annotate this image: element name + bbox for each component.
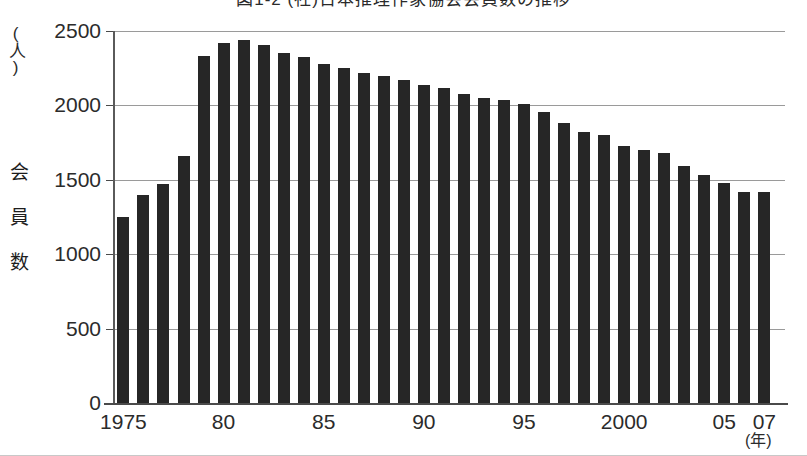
y-axis-title: 会員数 bbox=[6, 150, 32, 285]
bar bbox=[598, 135, 610, 403]
y-axis-tick-label: 500 bbox=[31, 318, 101, 339]
y-axis-title-char: 数 bbox=[6, 240, 32, 285]
bar bbox=[318, 64, 330, 403]
x-axis-tick-label: 80 bbox=[212, 410, 235, 434]
bar bbox=[398, 80, 410, 403]
bar bbox=[578, 132, 590, 403]
bar bbox=[278, 53, 290, 403]
bar bbox=[298, 57, 310, 403]
x-axis-unit-label: (年) bbox=[745, 432, 772, 450]
bar bbox=[618, 146, 630, 403]
y-axis-tick-mark bbox=[106, 254, 113, 255]
y-axis-tick-label: 2000 bbox=[31, 94, 101, 115]
bar bbox=[218, 43, 230, 403]
x-axis-tick-label: 2000 bbox=[601, 410, 648, 434]
y-axis-title-char: 会 bbox=[6, 150, 32, 195]
bar bbox=[338, 68, 350, 403]
bar bbox=[378, 76, 390, 403]
bar bbox=[137, 195, 149, 403]
bar bbox=[678, 166, 690, 403]
gridline bbox=[113, 31, 785, 32]
x-axis-tick-label: 05 bbox=[713, 410, 736, 434]
y-axis-tick-mark bbox=[106, 105, 113, 106]
bar bbox=[498, 100, 510, 403]
bar bbox=[558, 123, 570, 403]
bar bbox=[358, 73, 370, 403]
bar bbox=[738, 192, 750, 403]
chart-title: 図1-2 (社)日本推理作家協会会員数の推移 bbox=[0, 0, 807, 11]
bar bbox=[418, 85, 430, 403]
x-axis-tick-label: 90 bbox=[412, 410, 435, 434]
y-axis-line bbox=[113, 31, 115, 404]
y-axis-tick-label: 1500 bbox=[31, 169, 101, 190]
y-axis-tick-mark bbox=[106, 329, 113, 330]
bar bbox=[117, 217, 129, 403]
bar bbox=[478, 98, 490, 403]
y-axis-tick-mark bbox=[106, 180, 113, 181]
bar bbox=[157, 184, 169, 403]
bar bbox=[178, 156, 190, 403]
bar bbox=[698, 175, 710, 403]
x-axis-tick-label: 95 bbox=[512, 410, 535, 434]
y-axis-tick-label: 0 bbox=[31, 392, 101, 413]
y-axis-unit-label: (人) bbox=[6, 24, 24, 76]
bar bbox=[438, 88, 450, 403]
y-axis-title-char: 員 bbox=[6, 195, 32, 240]
bar bbox=[238, 40, 250, 403]
x-axis-tick-label: 1975 bbox=[100, 410, 147, 434]
x-axis-tick-label: 07 bbox=[753, 410, 776, 434]
y-axis-tick-mark bbox=[106, 31, 113, 32]
x-axis-tick-label: 85 bbox=[312, 410, 335, 434]
bar bbox=[258, 45, 270, 403]
chart-figure: 図1-2 (社)日本推理作家協会会員数の推移 (人) 会員数 050010001… bbox=[0, 0, 807, 456]
bar bbox=[518, 104, 530, 403]
plot-area bbox=[113, 31, 785, 403]
bar bbox=[658, 153, 670, 403]
bar bbox=[638, 150, 650, 403]
bar bbox=[538, 112, 550, 403]
bar bbox=[718, 183, 730, 403]
bar bbox=[758, 192, 770, 403]
x-axis-line bbox=[104, 403, 788, 405]
y-axis-tick-label: 2500 bbox=[31, 20, 101, 41]
bar bbox=[458, 94, 470, 403]
bar bbox=[198, 56, 210, 403]
y-axis-tick-label: 1000 bbox=[31, 243, 101, 264]
